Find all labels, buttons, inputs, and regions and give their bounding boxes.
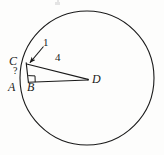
segment-cd	[27, 64, 88, 79]
length-label-cd: 4	[55, 52, 61, 63]
segment-bd	[28, 80, 88, 82]
unknown-angle-label: ?	[13, 66, 17, 76]
scan-speck	[57, 0, 59, 2]
point-label-a: A	[8, 81, 15, 93]
point-label-d: D	[92, 73, 101, 85]
scan-speck	[55, 2, 60, 5]
length-label-cb: 1	[43, 37, 49, 48]
point-label-b: B	[27, 81, 34, 93]
geometry-figure: C A B D 1 4 ?	[0, 0, 164, 155]
figure-canvas	[0, 0, 164, 155]
leader-arrow-to-c	[30, 47, 44, 63]
main-circle	[20, 11, 154, 145]
point-d-dot	[87, 79, 89, 81]
